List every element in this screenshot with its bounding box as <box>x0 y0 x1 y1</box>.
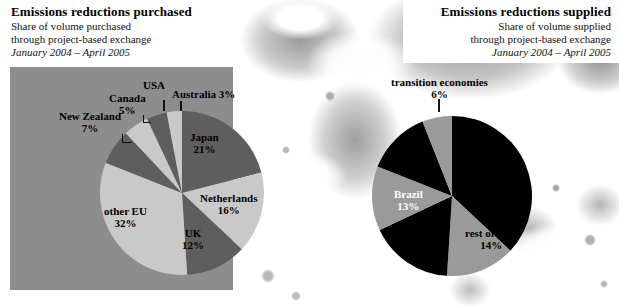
leader-line-australia <box>180 101 182 111</box>
pie-label-other-eu-pct: 32% <box>104 217 147 229</box>
pie-label-brazil: Brazil 13% <box>394 188 423 212</box>
pie-label-canada-pct: 5% <box>109 104 146 116</box>
pie-label-japan-text: Japan <box>190 131 219 143</box>
figure-canvas: Emissions reductions purchased Share of … <box>0 0 619 306</box>
pie-label-rest-of-asia-pct: 14% <box>465 239 517 251</box>
leader-line-transition-economies <box>438 99 440 112</box>
pie-label-japan: Japan 21% <box>190 131 219 155</box>
left-chart-subtitle-line1: Share of volume purchased <box>11 20 192 33</box>
pie-label-brazil-pct: 13% <box>394 200 423 212</box>
pie-label-uk-text: UK <box>185 227 202 239</box>
pie-label-japan-pct: 21% <box>190 143 219 155</box>
pie-label-uk: UK 12% <box>182 227 204 251</box>
pie-label-rest-of-asia-text: rest of Asia <box>465 227 517 239</box>
pie-label-transition-economies-text: transition economies <box>391 76 488 88</box>
pie-label-usa-text: USA <box>143 79 165 91</box>
pie-label-netherlands-text: Netherlands <box>200 192 257 204</box>
pie-label-canada: Canada 5% <box>109 92 146 116</box>
pie-label-canada-text: Canada <box>109 92 146 104</box>
pie-label-transition-economies: transition economies 6% <box>391 76 488 100</box>
left-chart-date-range: January 2004 – April 2005 <box>11 46 192 59</box>
pie-label-netherlands-pct: 16% <box>200 204 257 216</box>
right-title-block: Emissions reductions supplied Share of v… <box>441 4 611 59</box>
pie-label-rest-of-asia: rest of Asia 14% <box>465 227 517 251</box>
right-chart-subtitle-line1: Share of volume supplied <box>441 20 611 33</box>
pie-label-netherlands: Netherlands 16% <box>200 192 257 216</box>
leader-line-canada <box>143 115 151 123</box>
pie-label-other-eu: other EU 32% <box>104 205 147 229</box>
right-chart-title: Emissions reductions supplied <box>441 4 611 19</box>
pie-label-australia-text: Australia 3% <box>172 88 235 100</box>
leader-line-usa <box>163 100 165 111</box>
right-chart-date-range: January 2004 – April 2005 <box>441 46 611 59</box>
left-chart-title: Emissions reductions purchased <box>11 4 192 19</box>
pie-label-new-zealand-pct: 7% <box>59 122 121 134</box>
pie-label-uk-pct: 12% <box>182 239 204 251</box>
pie-label-brazil-text: Brazil <box>394 188 423 200</box>
pie-label-other-eu-text: other EU <box>104 205 147 217</box>
leader-line-new-zealand <box>122 134 132 143</box>
right-chart-subtitle-line2: through project-based exchange <box>441 33 611 46</box>
left-title-block: Emissions reductions purchased Share of … <box>11 4 192 59</box>
pie-label-usa: USA <box>143 79 165 91</box>
left-chart-subtitle-line2: through project-based exchange <box>11 33 192 46</box>
pie-label-australia: Australia 3% <box>172 88 235 100</box>
